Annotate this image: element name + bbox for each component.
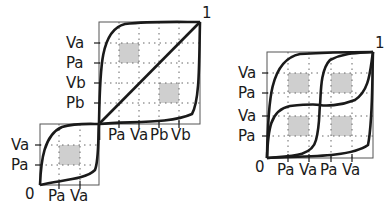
small-box: Va Pa Pa Va 0 (11, 124, 99, 205)
y-label-vb: Vb (66, 74, 86, 92)
corner-label-zero-right: 0 (255, 158, 265, 176)
x-label-va-1: Va (299, 161, 317, 179)
shaded-region-3 (288, 116, 309, 136)
y-label-va-1: Va (238, 64, 256, 82)
corner-label-zero: 0 (25, 185, 35, 203)
curves (99, 22, 200, 124)
y-label-pa: Pa (66, 54, 84, 72)
x-label-pa-1: Pa (277, 161, 295, 179)
diagram-canvas: Va Pa Vb Pb Pa Va Pb Vb 1 (0, 0, 387, 209)
shaded-region-4 (331, 116, 352, 136)
curves-right (267, 52, 373, 158)
corner-label-one-right: 1 (375, 34, 385, 52)
x-label-pa-small: Pa (48, 187, 66, 205)
diagonal-line (99, 22, 200, 124)
x-label-va: Va (130, 126, 148, 144)
y-label-va: Va (66, 34, 84, 52)
shaded-region-small (59, 145, 80, 165)
shaded-region-1 (288, 73, 309, 93)
y-label-pa-small: Pa (11, 156, 29, 174)
y-label-pb: Pb (66, 94, 85, 112)
x-label-pa: Pa (108, 126, 126, 144)
x-label-pb: Pb (150, 126, 169, 144)
right-figure: Va Pa Va Pa Pa Va Pa Va 1 0 (238, 34, 385, 179)
corner-label-one: 1 (202, 4, 212, 22)
x-label-va-small: Va (70, 187, 88, 205)
middle-curve-b (267, 52, 373, 158)
x-label-va-2: Va (342, 161, 360, 179)
shaded-region-a (119, 43, 139, 63)
y-label-pa-2: Pa (238, 127, 256, 145)
shaded-region-2 (331, 73, 352, 93)
left-figure: Va Pa Vb Pb Pa Va Pb Vb 1 (11, 4, 212, 205)
y-label-va-2: Va (238, 107, 256, 125)
shaded-region-b (159, 83, 179, 103)
x-label-vb: Vb (171, 126, 191, 144)
y-label-va-small: Va (11, 136, 29, 154)
x-label-pa-2: Pa (320, 161, 338, 179)
y-label-pa-1: Pa (238, 84, 256, 102)
